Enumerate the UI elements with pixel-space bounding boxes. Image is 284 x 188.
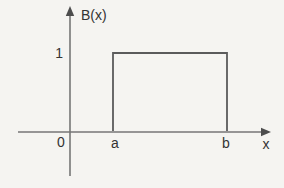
y-tick-label-1: 1 — [55, 45, 63, 61]
origin-label: 0 — [57, 134, 65, 150]
x-axis-arrow-icon — [261, 128, 271, 136]
x-tick-label-b: b — [222, 135, 230, 151]
boxcar-plot: B(x) 1 0 a b x — [0, 0, 284, 188]
y-axis-arrow-icon — [66, 6, 74, 16]
x-tick-label-a: a — [111, 135, 119, 151]
x-axis-label: x — [263, 136, 270, 152]
boxcar-function-figure: B(x) 1 0 a b x — [0, 0, 284, 188]
pulse-curve — [113, 53, 227, 131]
y-axis-label: B(x) — [81, 7, 107, 23]
